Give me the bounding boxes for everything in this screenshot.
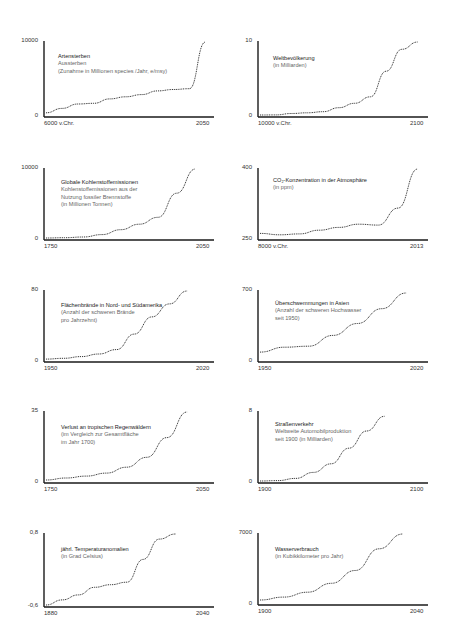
x-start-label: 1900	[258, 608, 271, 614]
chart-title: Wasserverbrauch	[275, 546, 343, 553]
chart-plot	[0, 0, 453, 637]
y-max-label: 7000	[222, 529, 252, 535]
x-end-label: 2040	[410, 608, 423, 614]
chart-subtitle-line: (in Kubikkilometer pro Jahr)	[275, 553, 343, 560]
data-line	[260, 534, 403, 600]
chart-caption: Wasserverbrauch(in Kubikkilometer pro Ja…	[275, 546, 343, 561]
y-min-label: 0	[222, 600, 252, 606]
